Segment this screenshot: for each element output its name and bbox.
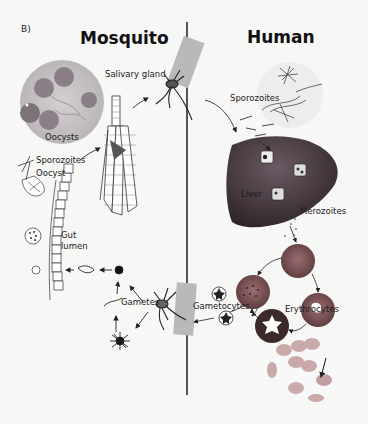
lumen-label: lumen: [61, 242, 88, 251]
merozoites-label: Merozoites: [300, 207, 346, 216]
blood-smear-micrograph: [267, 336, 340, 402]
human-column-title: Human: [247, 29, 315, 46]
salivary-gland-illustration: [100, 96, 137, 215]
erythrocyte-cycle: [224, 226, 335, 343]
sporozoites-human-label: Sporozoites: [230, 94, 280, 103]
panel-label: B): [21, 24, 31, 34]
oocyst-label: Oocyst: [36, 169, 65, 178]
gametes-label: Gametes: [121, 298, 159, 307]
liver-label: Liver: [241, 190, 262, 199]
gametocytes-label: Gametocytes: [193, 302, 250, 311]
oocysts-label: Oocysts: [45, 133, 79, 142]
gut-label: Gut: [61, 231, 76, 240]
mosquito-column-title: Mosquito: [80, 30, 169, 47]
sporozoites-mosquito-label: Sporozoites: [36, 156, 86, 165]
erythrocytes-label: Erythrocytes: [285, 305, 339, 314]
gametes-illustration: [66, 266, 148, 350]
salivary-gland-label: Salivary gland: [105, 70, 166, 79]
sporozoites-mosquito-illustration: [18, 156, 34, 180]
